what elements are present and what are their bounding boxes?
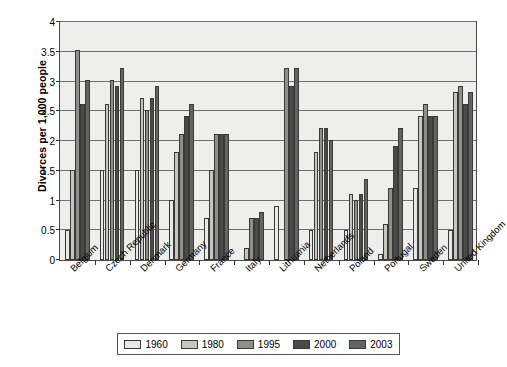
bar-group: [60, 22, 95, 260]
bar: [274, 206, 279, 260]
bar: [418, 116, 423, 260]
bar: [354, 200, 359, 260]
bar: [110, 80, 115, 260]
bar-group: [374, 22, 409, 260]
y-axis-tick-label: 4: [49, 17, 55, 28]
legend-label: 1980: [202, 339, 224, 350]
bar: [319, 128, 324, 260]
legend-swatch-icon: [181, 340, 198, 349]
bar: [244, 248, 249, 260]
bar: [75, 50, 80, 260]
y-axis-tick-label: 1: [49, 195, 55, 206]
legend-item-2003[interactable]: 2003: [349, 339, 392, 350]
bar: [468, 92, 473, 260]
y-axis-tick-label: 2.5: [41, 106, 55, 117]
y-axis-tick-label: 0.5: [41, 225, 55, 236]
legend-swatch-icon: [293, 340, 310, 349]
bar-series-container: [60, 22, 476, 260]
y-axis-tick-label: 3.5: [41, 46, 55, 57]
legend-label: 1960: [145, 339, 167, 350]
bar: [189, 104, 194, 260]
bar: [463, 104, 468, 260]
bar: [349, 194, 354, 260]
legend-label: 2000: [314, 339, 336, 350]
bar: [398, 128, 403, 260]
legend-label: 1995: [258, 339, 280, 350]
bar: [378, 254, 383, 260]
legend-swatch-icon: [237, 340, 254, 349]
bar: [448, 230, 453, 260]
bar: [105, 104, 110, 260]
bar: [219, 134, 224, 260]
legend-item-1980[interactable]: 1980: [181, 339, 224, 350]
bar: [433, 116, 438, 260]
legend-swatch-icon: [349, 340, 366, 349]
bar: [100, 170, 105, 260]
bar: [249, 218, 254, 260]
bar-group: [95, 22, 130, 260]
bar: [393, 146, 398, 260]
bar: [428, 116, 433, 260]
y-axis-tick-label: 0: [49, 255, 55, 266]
bar-group: [234, 22, 269, 260]
bar: [314, 152, 319, 260]
bar: [453, 92, 458, 260]
x-axis-category-labels: BelgiumCzech RepublicDenmarkGermanyFranc…: [59, 262, 477, 332]
bar: [85, 80, 90, 260]
bar: [169, 200, 174, 260]
bar: [289, 86, 294, 260]
plot-area: 00.511.522.533.54: [59, 21, 477, 261]
bar: [388, 188, 393, 260]
legend-item-1960[interactable]: 1960: [124, 339, 167, 350]
bar: [120, 68, 125, 260]
bar-group: [304, 22, 339, 260]
legend-item-1995[interactable]: 1995: [237, 339, 280, 350]
bar: [423, 104, 428, 260]
chart-legend: 19601980199520002003: [117, 333, 400, 355]
bar: [294, 68, 299, 260]
bar-group: [339, 22, 374, 260]
bar: [284, 68, 289, 260]
bar: [179, 134, 184, 260]
bar-group: [269, 22, 304, 260]
bar-group: [165, 22, 200, 260]
legend-item-2000[interactable]: 2000: [293, 339, 336, 350]
bar-group: [443, 22, 478, 260]
bar: [324, 128, 329, 260]
bar: [214, 134, 219, 260]
bar: [80, 104, 85, 260]
bar: [458, 86, 463, 260]
bar: [209, 170, 214, 260]
y-axis-tick-label: 3: [49, 76, 55, 87]
bar-group: [408, 22, 443, 260]
bar: [174, 152, 179, 260]
bar: [383, 224, 388, 260]
bar: [204, 218, 209, 260]
y-axis-tick-label: 2: [49, 136, 55, 147]
bar: [184, 116, 189, 260]
y-axis-tick-label: 1.5: [41, 165, 55, 176]
legend-swatch-icon: [124, 340, 141, 349]
bar: [150, 98, 155, 260]
bar: [329, 140, 334, 260]
bar: [70, 170, 75, 260]
bar: [155, 86, 160, 260]
legend-label: 2003: [370, 339, 392, 350]
bar: [224, 134, 229, 260]
bar-group: [199, 22, 234, 260]
bar: [115, 86, 120, 260]
bar: [65, 230, 70, 260]
bar: [259, 212, 264, 260]
x-axis-tick-mark: [478, 260, 479, 265]
